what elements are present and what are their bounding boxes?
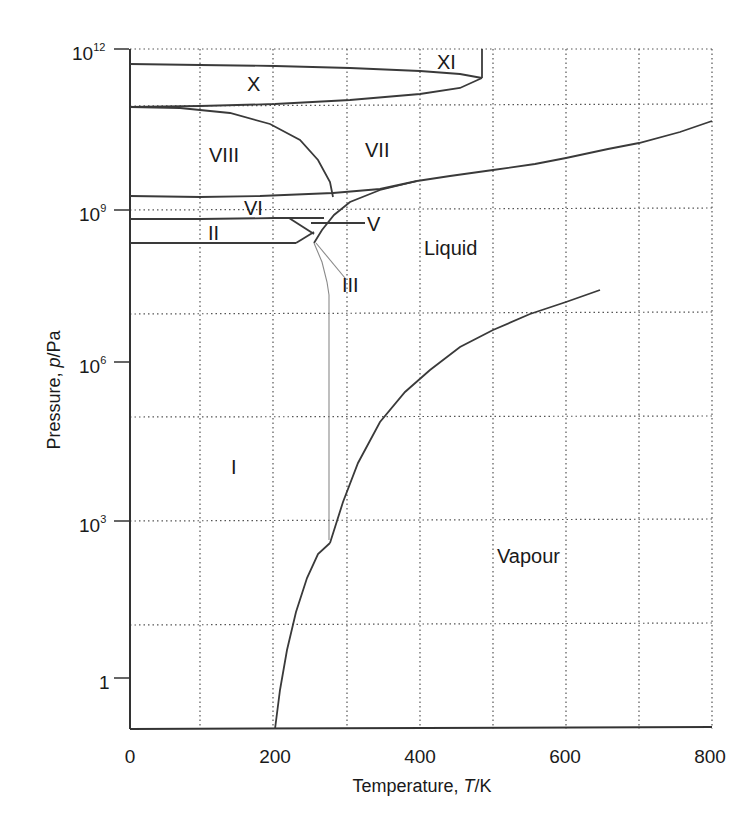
melting-curve-i (314, 243, 329, 540)
region-label-vi: VI (244, 197, 263, 219)
boundary-ii-vi (130, 218, 324, 219)
label-leader-iii (316, 243, 345, 278)
region-label-iii: III (342, 274, 359, 296)
sublimation-curve (275, 543, 330, 729)
x-tick-label-0: 0 (125, 746, 136, 767)
region-label-ii: II (208, 222, 219, 244)
x-tick-label-400: 400 (404, 746, 436, 767)
x-axis-title: Temperature, T/K (352, 776, 491, 796)
boundary-x-upper (130, 64, 482, 78)
region-label-i: I (231, 456, 237, 478)
boundary-x-lower (130, 78, 482, 107)
region-label-viii: VIII (209, 144, 239, 166)
y-tick-label-1: 1 (99, 672, 110, 693)
x-tick-label-800: 800 (694, 746, 726, 767)
y-tick-label-1e9: 109 (79, 202, 106, 225)
x-tick-label-600: 600 (549, 746, 581, 767)
region-label-v: V (367, 213, 381, 235)
x-tick-label-200: 200 (259, 746, 291, 767)
boundary-ii-v (289, 218, 314, 234)
region-labels: X XI VIII VII VI V II III Liquid I Vapou… (208, 51, 560, 567)
y-axis-title: Pressure, p/Pa (44, 329, 64, 449)
boundary-ii-iii (296, 232, 314, 243)
vapour-pressure-curve (330, 290, 600, 543)
region-label-vii: VII (365, 139, 389, 161)
region-label-vapour: Vapour (497, 545, 560, 567)
region-label-liquid: Liquid (424, 237, 477, 259)
x-axis (130, 727, 712, 729)
region-label-xi: XI (437, 51, 456, 73)
y-ticks (114, 49, 129, 678)
melting-curve-vii (417, 121, 712, 181)
phase-diagram-chart: 1012 109 106 103 1 0 200 400 600 800 Tem… (0, 0, 756, 823)
y-tick-label-1e12: 1012 (72, 41, 105, 64)
y-tick-label-1e6: 106 (79, 354, 106, 377)
region-label-x: X (247, 73, 260, 95)
y-tick-label-1e3: 103 (79, 513, 106, 536)
